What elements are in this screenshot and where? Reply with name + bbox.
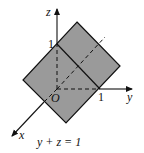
plane-caption: y + z = 1 — [36, 135, 81, 149]
z-tick-label: 1 — [48, 37, 54, 51]
plane-diagram: z y x O 1 1 y + z = 1 — [0, 0, 144, 153]
x-axis-label: x — [18, 128, 25, 142]
y-tick-label: 1 — [98, 90, 104, 104]
y-axis-label: y — [126, 90, 133, 104]
z-axis-label: z — [45, 5, 51, 19]
origin-label: O — [51, 91, 60, 105]
plane-y-plus-z-equals-1 — [23, 22, 120, 123]
x-axis — [12, 102, 44, 136]
